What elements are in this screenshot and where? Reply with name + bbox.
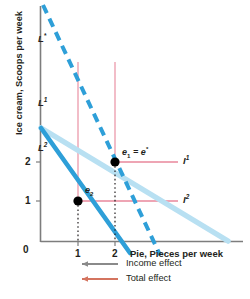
budget-line-Lstar-label: L* <box>38 33 46 44</box>
budget-line-Lstar <box>43 5 160 255</box>
x-tick-label-2: 2 <box>112 249 118 259</box>
point-e1-label: e1 = e* <box>122 146 148 159</box>
y-tick-label-1: 1 <box>25 196 31 206</box>
point-e2-label: e2 <box>85 186 93 197</box>
legend-label-total-effect: Total effect <box>126 274 171 283</box>
budget-line-L1-label: L1 <box>38 97 47 108</box>
y-tick-label-2: 2 <box>25 157 31 167</box>
point-e1 <box>110 157 119 166</box>
y-axis-title: Ice cream, Scoops per week <box>14 8 24 138</box>
indifference-curve-2-label: I2 <box>183 194 189 205</box>
legend-label-income-effect: Income effect <box>126 259 182 268</box>
budget-line-L2-label: L2 <box>38 142 47 153</box>
indifference-curve-1-label: I1 <box>183 155 189 166</box>
legend-arrow-income <box>82 261 118 267</box>
figure-container: Ice cream, Scoops per week Pie, Pieces p… <box>0 0 250 299</box>
x-tick-label-1: 1 <box>75 249 81 259</box>
budget-line-L1 <box>41 128 228 241</box>
point-e2 <box>73 196 82 205</box>
legend-arrow-total <box>82 276 118 282</box>
origin-label: 0 <box>23 245 29 255</box>
